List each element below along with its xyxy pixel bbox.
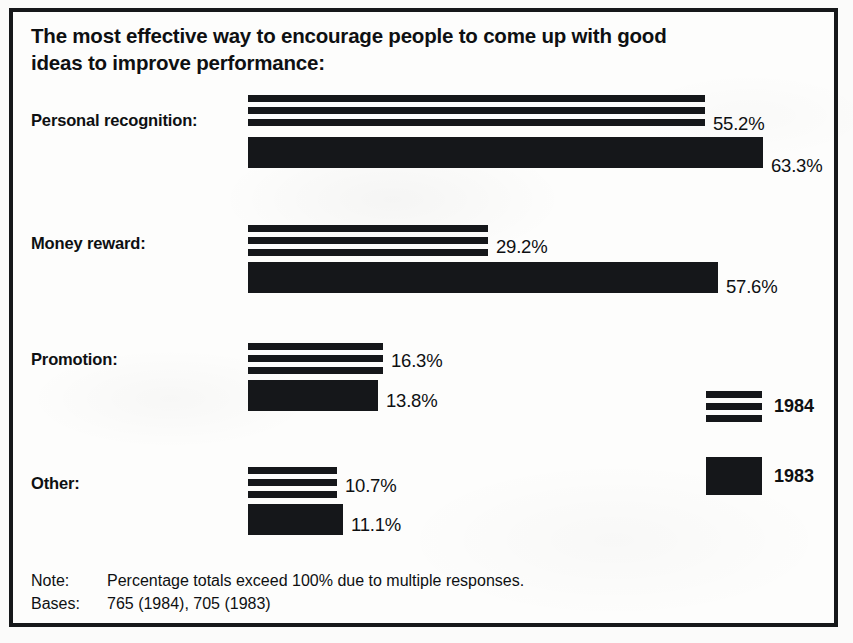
legend-swatch-striped-icon <box>706 391 762 422</box>
footnote-bases-key: Bases: <box>31 593 107 616</box>
footnote-note-key: Note: <box>31 570 107 593</box>
footnote-bases-text: 765 (1984), 705 (1983) <box>107 593 271 616</box>
footnote-bases-line: Bases:765 (1984), 705 (1983) <box>31 593 524 616</box>
footnote-note-text: Percentage totals exceed 100% due to mul… <box>107 570 524 593</box>
footnote-note-line: Note:Percentage totals exceed 100% due t… <box>31 570 524 593</box>
chart-legend: 1984 1983 <box>0 0 853 643</box>
legend-label-1983: 1983 <box>774 466 814 487</box>
chart-footnotes: Note:Percentage totals exceed 100% due t… <box>31 570 524 615</box>
legend-swatch-solid-icon <box>706 457 762 495</box>
chart-scan-surface: The most effective way to encourage peop… <box>0 0 853 643</box>
legend-label-1984: 1984 <box>774 396 814 417</box>
